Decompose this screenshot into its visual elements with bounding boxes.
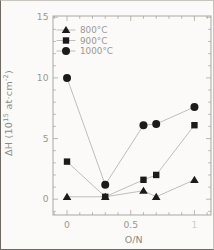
square-marker xyxy=(102,194,108,200)
series-line xyxy=(67,180,194,197)
legend-entry-800°C: 800°C xyxy=(57,25,108,35)
series-800°C xyxy=(63,176,199,200)
triangle-marker xyxy=(63,193,72,200)
y-axis-label: ΔH (1015 at·cm-2) xyxy=(2,33,18,193)
legend-entry-1000°C: 1000°C xyxy=(57,46,113,56)
x-tick-label: 1 xyxy=(192,219,198,230)
figure: 00.51051015O/N800°C900°C1000°C ΔH (1015 … xyxy=(0,0,214,250)
circle-marker xyxy=(62,47,70,55)
triangle-marker xyxy=(139,187,148,194)
triangle-marker xyxy=(152,193,161,200)
circle-marker xyxy=(152,120,160,128)
legend-label: 900°C xyxy=(80,36,107,46)
x-tick-label: 0.5 xyxy=(123,219,138,230)
y-tick-label: 15 xyxy=(37,11,49,22)
y-axis-label-sup-exponent: 15 xyxy=(2,113,10,122)
y-axis-label-sup-unit: -2 xyxy=(2,74,10,81)
legend-label: 1000°C xyxy=(80,46,113,56)
square-marker xyxy=(191,122,197,128)
circle-marker xyxy=(101,181,109,189)
y-tick-label: 10 xyxy=(37,72,49,83)
square-marker xyxy=(63,37,69,43)
legend-label: 800°C xyxy=(80,25,107,35)
x-tick-label: 0 xyxy=(64,219,70,230)
y-axis-label-unit: at·cm xyxy=(3,81,14,113)
legend-entry-900°C: 900°C xyxy=(57,36,108,46)
circle-marker xyxy=(190,103,198,111)
y-axis-label-text: ΔH (10 xyxy=(3,122,14,156)
circle-marker xyxy=(139,121,147,129)
square-marker xyxy=(153,172,159,178)
square-marker xyxy=(64,158,70,164)
triangle-marker xyxy=(190,176,199,183)
y-tick-label: 5 xyxy=(43,133,49,144)
legend: 800°C900°C1000°C xyxy=(57,25,113,56)
series-900°C xyxy=(64,122,198,200)
circle-marker xyxy=(63,74,71,82)
series-line xyxy=(67,125,194,197)
series-line xyxy=(67,78,194,185)
y-axis-label-close: ) xyxy=(3,70,14,74)
y-tick-label: 0 xyxy=(43,193,49,204)
square-marker xyxy=(140,177,146,183)
series-1000°C xyxy=(63,74,198,189)
x-axis-label: O/N xyxy=(125,234,143,245)
chart-canvas: 00.51051015O/N800°C900°C1000°C xyxy=(1,1,214,250)
